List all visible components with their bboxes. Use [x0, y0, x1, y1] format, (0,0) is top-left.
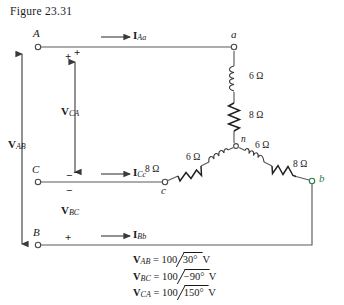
- eq-magnitude: 100: [162, 271, 178, 282]
- node-circle-n: [234, 144, 239, 149]
- node-label-b: b: [319, 172, 325, 184]
- eq-unit: V: [208, 287, 216, 298]
- node-circle-A: [35, 44, 40, 49]
- component-label-resistor-b: 8 Ω: [293, 159, 307, 169]
- inductor-b-branch: [245, 149, 264, 162]
- equation-row: VCA = 100150° V: [133, 285, 216, 302]
- eq-angle: −90°: [183, 270, 204, 284]
- wires: [41, 47, 312, 245]
- polarity-C-minus: −: [66, 169, 72, 181]
- component-label-inductor-a: 6 Ω: [249, 71, 263, 81]
- polarity-C-minus-lower: −: [66, 184, 72, 196]
- eq-symbol: V: [133, 271, 141, 282]
- voltage-label-BC: VBC: [61, 204, 79, 217]
- node-circle-b: [309, 178, 314, 183]
- wire-ind-res-b: [264, 162, 272, 166]
- resistor-a-branch: [229, 103, 240, 131]
- node-circle-C: [35, 179, 40, 184]
- voltage-symbol-AB: V: [8, 138, 16, 150]
- component-label-resistor-c: 8 Ω: [145, 164, 159, 174]
- angle-icon: −90°: [177, 269, 209, 284]
- eq-symbol: V: [133, 287, 141, 298]
- eq-angle: 30°: [183, 253, 198, 267]
- equation-block: VAB = 10030° V VBC = 100−90° V VCA = 100…: [133, 252, 216, 302]
- polarity-A-plus: +: [65, 50, 71, 62]
- node-label-C: C: [32, 163, 39, 175]
- voltage-symbol-CA: V: [61, 105, 69, 117]
- node-label-a: a: [231, 28, 237, 40]
- polarity-VCA-plus: +: [74, 46, 80, 58]
- voltage-label-AB: VAB: [8, 138, 26, 151]
- resistor-c-branch: [178, 166, 202, 181]
- eq-symbol: V: [133, 254, 141, 265]
- eq-magnitude: 100: [162, 254, 178, 265]
- voltage-subscript-AB: AB: [16, 142, 26, 151]
- node-label-B: B: [33, 226, 40, 238]
- node-label-n: n: [241, 134, 246, 144]
- angle-icon: 30°: [176, 252, 202, 267]
- terminal-nodes: [35, 44, 314, 247]
- figure-canvas: Figure 23.31: [0, 0, 344, 305]
- wire-res-b: [296, 177, 309, 181]
- polarity-VCA-minus: −: [73, 166, 79, 178]
- eq-magnitude: 100: [162, 287, 178, 298]
- wire-B-b: [41, 184, 312, 245]
- polarity-B-plus: +: [65, 231, 71, 243]
- current-label-Bb: IBb: [133, 228, 146, 241]
- current-subscript-Bb: Bb: [137, 232, 146, 241]
- eq-unit: V: [202, 254, 210, 265]
- current-subscript-Aa: Aa: [137, 33, 146, 42]
- component-label-inductor-c: 6 Ω: [186, 152, 200, 162]
- eq-angle: 150°: [183, 286, 203, 300]
- wire-res-ind-c: [201, 162, 209, 166]
- current-label-Aa: IAa: [133, 29, 146, 42]
- eq-equals: =: [153, 287, 159, 298]
- voltage-symbol-BC: V: [61, 204, 69, 216]
- node-circle-B: [35, 242, 40, 247]
- wire-ind-n-c: [228, 148, 234, 151]
- wire-c-res: [168, 176, 178, 181]
- equation-row: VBC = 100−90° V: [133, 269, 216, 286]
- wire-n-ind-b: [239, 148, 245, 151]
- node-label-A: A: [33, 27, 40, 39]
- eq-equals: =: [153, 254, 159, 265]
- eq-subscript: AB: [141, 257, 151, 266]
- voltage-subscript-CA: CA: [69, 109, 79, 118]
- angle-icon: 150°: [177, 285, 209, 300]
- component-label-resistor-a: 8 Ω: [249, 110, 263, 120]
- inductor-a-branch: [230, 66, 235, 91]
- node-label-c: c: [161, 184, 166, 196]
- inductor-c-branch: [209, 149, 228, 162]
- eq-subscript: CA: [141, 290, 151, 299]
- voltage-subscript-BC: BC: [69, 208, 79, 217]
- component-label-inductor-b: 6 Ω: [255, 140, 269, 150]
- eq-equals: =: [153, 271, 159, 282]
- equation-row: VAB = 10030° V: [133, 252, 216, 269]
- voltage-label-CA: VCA: [61, 105, 79, 118]
- eq-subscript: BC: [141, 274, 151, 283]
- node-circle-a: [231, 44, 236, 49]
- eq-unit: V: [209, 271, 217, 282]
